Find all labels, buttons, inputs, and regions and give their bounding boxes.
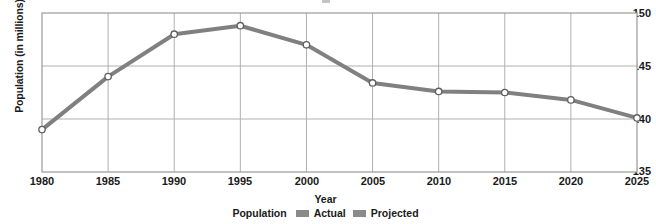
x-axis-title: Year — [0, 193, 651, 205]
chart-legend: Population Actual Projected — [0, 207, 651, 219]
legend-swatch-projected-icon — [353, 210, 366, 217]
data-point-marker — [435, 88, 441, 94]
legend-label-projected: Projected — [371, 207, 419, 219]
x-tick-label-1995: 1995 — [217, 176, 263, 187]
x-tick-label-2025: 2025 — [614, 176, 656, 187]
legend-swatch-actual-icon — [296, 210, 309, 217]
x-tick-label-2000: 2000 — [284, 176, 330, 187]
data-point-marker — [303, 42, 309, 48]
legend-label-actual: Actual — [314, 207, 346, 219]
x-tick-label-1980: 1980 — [19, 176, 65, 187]
plot-background — [42, 13, 637, 172]
data-point-marker — [39, 126, 45, 132]
x-tick-label-2010: 2010 — [416, 176, 462, 187]
legend-title: Population — [232, 207, 286, 219]
legend-entry-projected: Projected — [353, 207, 419, 219]
legend-entry-actual: Actual — [296, 207, 346, 219]
data-point-marker — [634, 115, 640, 121]
x-tick-label-1990: 1990 — [151, 176, 197, 187]
data-point-marker — [568, 97, 574, 103]
data-point-marker — [369, 80, 375, 86]
x-tick-label-2020: 2020 — [548, 176, 594, 187]
data-point-marker — [105, 73, 111, 79]
data-point-marker — [502, 89, 508, 95]
x-tick-label-1985: 1985 — [85, 176, 131, 187]
data-point-marker — [237, 23, 243, 29]
x-tick-label-2005: 2005 — [350, 176, 396, 187]
data-point-marker — [171, 31, 177, 37]
x-tick-label-2015: 2015 — [482, 176, 528, 187]
